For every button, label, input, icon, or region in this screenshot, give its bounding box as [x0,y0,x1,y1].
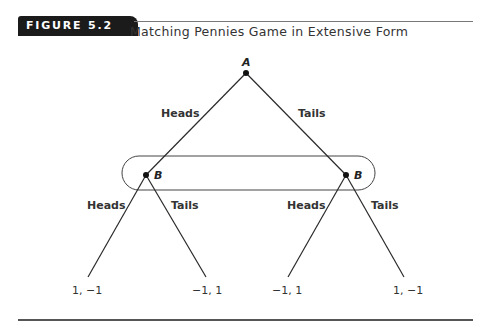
left-player-label: B [154,169,162,182]
left-heads-label: Heads [87,199,126,212]
payoff-1: 1, −1 [72,284,102,297]
node-b-right [343,172,349,178]
left-tails-label: Tails [171,199,199,212]
branch-right-tails [346,175,404,277]
root-tails-label: Tails [298,107,326,120]
right-player-label: B [354,169,362,182]
payoff-2: −1, 1 [192,284,222,297]
node-b-left [143,172,149,178]
right-tails-label: Tails [371,199,399,212]
payoff-3: −1, 1 [272,284,302,297]
root-node [243,70,249,76]
payoff-4: 1, −1 [393,284,423,297]
game-tree: A B B Heads Tails Heads Tails Heads Tail… [0,0,487,331]
right-heads-label: Heads [287,199,326,212]
branch-left-heads [88,175,146,277]
branch-root-heads [146,73,246,175]
root-heads-label: Heads [161,107,200,120]
bottom-rule [18,319,473,321]
root-player-label: A [241,56,251,69]
branch-root-tails [246,73,346,175]
